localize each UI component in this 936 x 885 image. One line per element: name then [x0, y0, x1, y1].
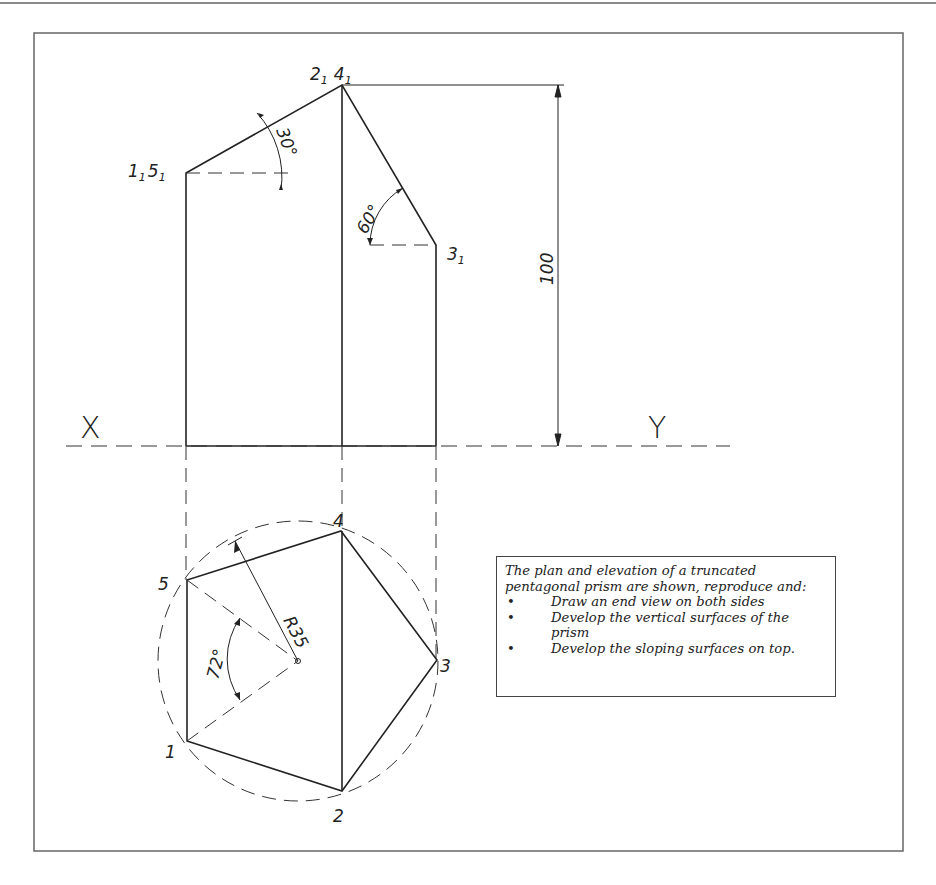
- plan-construction-lines: [187, 580, 298, 741]
- task-list: Draw an end view on both sides Develop t…: [505, 594, 829, 656]
- task-item: Develop the vertical surfaces of the pri…: [505, 610, 829, 641]
- angle-72-label: 72°: [203, 647, 230, 681]
- elevation-view: [186, 85, 436, 446]
- vertex-label-2: 2: [333, 806, 344, 826]
- drawing-frame: [34, 33, 903, 851]
- height-100-label: 100: [537, 253, 557, 285]
- x-label: X: [80, 410, 101, 445]
- vertex-label-4: 4: [333, 511, 344, 531]
- instructions-box: The plan and elevation of a truncated pe…: [496, 556, 836, 697]
- elevation-construction-lines: [186, 173, 436, 245]
- radius-label: R35: [279, 612, 312, 651]
- task-item: Develop the sloping surfaces on top.: [505, 641, 829, 657]
- angle-30-dimension: 30°: [257, 113, 301, 190]
- task-item: Draw an end view on both sides: [505, 594, 829, 610]
- angle-30-label: 30°: [272, 125, 301, 160]
- elevation-labels: 2141 1151 31: [128, 64, 465, 267]
- projection-lines: [186, 446, 436, 660]
- angle-60-label: 60°: [352, 201, 384, 237]
- vertex-label-5: 5: [158, 574, 169, 594]
- vertex-label-1: 1: [165, 742, 176, 762]
- vertex-label-3: 3: [440, 656, 451, 676]
- angle-60-dimension: 60°: [352, 188, 403, 245]
- radius-dimension: R35: [228, 537, 313, 664]
- technical-drawing: X Y 30° 60° 100 2141 1151 31: [0, 0, 936, 885]
- instructions-intro: The plan and elevation of a truncated pe…: [505, 563, 829, 594]
- elevation-outline: [186, 85, 436, 446]
- height-dimension: [342, 85, 564, 446]
- svg-text:2141: 2141: [310, 64, 352, 87]
- angle-72-dimension: 72°: [203, 618, 240, 700]
- y-label: Y: [648, 410, 666, 445]
- svg-text:31: 31: [447, 244, 465, 267]
- svg-text:1151: 1151: [128, 161, 166, 184]
